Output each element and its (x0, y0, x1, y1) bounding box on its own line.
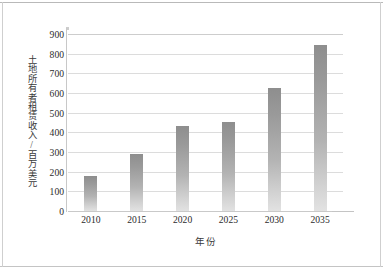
gridline (68, 211, 343, 212)
y-axis-tick-label: 500 (38, 107, 64, 118)
bar[interactable] (314, 45, 327, 211)
bar-slot (297, 34, 343, 211)
bar[interactable] (222, 122, 235, 211)
bar[interactable] (176, 126, 189, 211)
bar-slot (68, 34, 114, 211)
y-axis-tick-label: 300 (38, 147, 64, 158)
bar-slot (206, 34, 252, 211)
y-axis-line (66, 28, 67, 212)
plot-area (68, 34, 343, 211)
bar-series (68, 34, 343, 211)
x-axis-tick-label: 2035 (310, 214, 329, 225)
y-axis-tick-label: 0 (38, 206, 64, 217)
bar[interactable] (84, 176, 97, 211)
bar[interactable] (130, 154, 143, 211)
document-page: 土地所有者租赁收入/百万美元 9008007006005004003002001… (0, 0, 383, 269)
y-axis-tick-label: 200 (38, 166, 64, 177)
bar-chart: 土地所有者租赁收入/百万美元 9008007006005004003002001… (0, 0, 383, 269)
y-axis-tick-label: 700 (38, 68, 64, 79)
x-axis-tail-line (332, 211, 354, 212)
y-axis-tick-labels: 9008007006005004003002001000 (38, 34, 64, 211)
y-axis-tick-label: 900 (38, 29, 64, 40)
bar[interactable] (268, 88, 281, 211)
y-axis-title: 土地所有者租赁收入/百万美元 (24, 50, 38, 192)
x-axis-tick-label: 2020 (173, 214, 192, 225)
bar-slot (251, 34, 297, 211)
y-axis-tick-label: 400 (38, 127, 64, 138)
bar-slot (160, 34, 206, 211)
x-axis-tick-label: 2030 (265, 214, 284, 225)
x-axis-title: 年份 (68, 234, 343, 248)
x-axis-tick-label: 2010 (81, 214, 100, 225)
x-axis-tick-label: 2015 (127, 214, 146, 225)
y-axis-tick-label: 100 (38, 186, 64, 197)
x-axis-tick-labels: 201020152020202520302035 (68, 214, 343, 228)
y-axis-tick-label: 800 (38, 48, 64, 59)
y-axis-tick-label: 600 (38, 88, 64, 99)
x-axis-tick-label: 2025 (219, 214, 238, 225)
bar-slot (114, 34, 160, 211)
